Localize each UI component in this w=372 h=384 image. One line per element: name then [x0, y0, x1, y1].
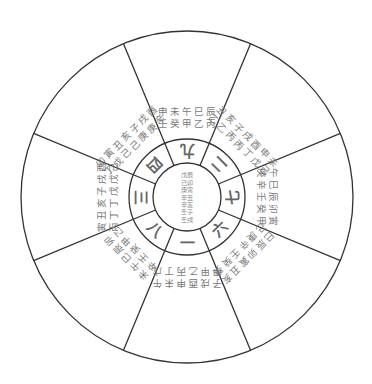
sector-item: 辛 [256, 180, 267, 190]
sector-item: 未 [164, 278, 174, 289]
sector-item: 巳 [268, 180, 279, 190]
sector-item: 丙 [108, 222, 119, 232]
sector-item: 甲 [182, 118, 192, 129]
ring-number-bottom: 一 [180, 234, 195, 252]
sector-right: 庚午辛巳壬辰癸卯甲寅 [256, 168, 279, 226]
sector-item: 戌 [200, 278, 210, 289]
sector-item: 午 [152, 278, 162, 289]
sector-item: 甲 [212, 266, 222, 277]
sector-item: 丁 [108, 210, 119, 220]
sector-item: 午 [182, 106, 192, 117]
sector-item: 未 [170, 106, 180, 117]
sector-item: 辰 [268, 192, 279, 202]
sector-item: 酉 [188, 278, 198, 289]
center-item: 壬子 [181, 208, 193, 215]
sector-item: 寅 [96, 222, 107, 232]
sector-item: 丑 [96, 210, 107, 220]
sector-item: 子 [212, 278, 222, 289]
sector-item: 午 [268, 168, 279, 178]
sector-item: 癸 [170, 118, 180, 129]
center-item: 壬戌 [181, 216, 193, 224]
sector-item: 丁 [164, 266, 174, 277]
ring-number-right: 七 [224, 190, 242, 205]
sector-item: 乙 [188, 266, 198, 277]
sector-top: 壬申癸未甲午乙巳丙辰 [158, 106, 216, 129]
nine-palace-wheel: 九二七六一八三四 壬申癸未甲午乙巳丙辰乙丑乙亥丙子丙戌丁酉戊申己未庚午辛巳壬辰癸… [0, 0, 372, 384]
sector-item: 戊 [108, 186, 119, 196]
ring-number-left: 三 [132, 190, 150, 205]
sector-item: 庚 [256, 168, 267, 178]
sector-item: 申 [176, 278, 186, 289]
ring-number-top: 九 [180, 142, 196, 160]
sector-item: 亥 [96, 198, 107, 208]
sector-item: 戌 [96, 174, 107, 184]
sector-item: 寅 [268, 216, 279, 226]
sector-item: 子 [96, 186, 107, 196]
sector-item: 甲 [200, 266, 210, 277]
center-list: 戊辰己卯庚寅辛丑辛亥壬子壬戌 [181, 171, 193, 223]
sector-item: 壬 [256, 192, 267, 202]
sector-item: 巳 [194, 106, 204, 117]
sector-bottom: 甲子甲戌乙酉丙申丁未戊午 [152, 266, 222, 289]
sector-item: 乙 [194, 118, 204, 129]
sector-item: 丁 [108, 198, 119, 208]
sector-item: 卯 [268, 204, 279, 214]
sector-item: 丙 [176, 266, 186, 277]
sector-item: 癸 [256, 204, 267, 214]
